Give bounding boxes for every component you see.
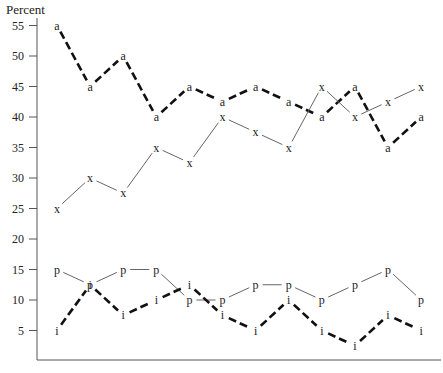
series-segment: [194, 123, 219, 157]
series-segment: [96, 181, 116, 190]
point-marker: a: [54, 19, 60, 33]
series-segment: [262, 135, 282, 144]
point-marker: a: [253, 80, 259, 94]
point-marker: x: [153, 141, 159, 155]
series-segment: [394, 89, 414, 98]
y-tick-label: 20: [12, 232, 24, 246]
point-marker: x: [286, 141, 292, 155]
point-marker: p: [385, 263, 391, 277]
series-segment: [361, 272, 381, 281]
point-marker: a: [319, 110, 325, 124]
point-marker: p: [186, 293, 192, 307]
series-segment: [262, 89, 282, 98]
y-tick-label: 30: [12, 171, 24, 185]
point-marker: i: [287, 293, 291, 307]
series-segment: [163, 288, 183, 297]
series-segment: [360, 320, 383, 341]
series-segment: [127, 62, 153, 111]
series-segment: [292, 93, 318, 142]
point-marker: i: [386, 308, 390, 322]
series-segment: [127, 153, 152, 187]
series-segment: [328, 288, 348, 297]
point-marker: x: [186, 156, 192, 170]
point-marker: x: [120, 186, 126, 200]
series-x: [62, 89, 415, 203]
point-marker: i: [353, 339, 357, 353]
y-tick-label: 45: [12, 80, 24, 94]
y-tick-label: 25: [12, 202, 24, 216]
point-marker: x: [418, 80, 424, 94]
series-segment: [394, 318, 414, 327]
point-marker: i: [155, 293, 159, 307]
series-segment: [63, 272, 83, 281]
series-segment: [229, 288, 249, 297]
point-marker: p: [418, 293, 424, 307]
point-marker: x: [319, 80, 325, 94]
point-marker: x: [54, 202, 60, 216]
series-segment: [60, 32, 86, 81]
y-tick-label: 40: [12, 110, 24, 124]
y-tick-label: 5: [18, 324, 24, 338]
y-tick-label: 55: [12, 19, 24, 33]
point-marker: i: [122, 308, 126, 322]
series-segment: [393, 274, 416, 295]
point-marker: p: [253, 278, 259, 292]
point-marker: p: [352, 278, 358, 292]
point-marker: p: [319, 293, 325, 307]
point-marker: i: [254, 324, 258, 338]
point-marker: a: [187, 80, 193, 94]
point-marker: a: [121, 49, 127, 63]
series-segment: [61, 290, 86, 324]
y-tick-label: 10: [12, 293, 24, 307]
y-tick-label: 35: [12, 141, 24, 155]
y-tick-label: 50: [12, 49, 24, 63]
point-marker: i: [55, 324, 59, 338]
series-p: [63, 270, 416, 301]
series-segment: [62, 183, 85, 204]
point-marker: x: [352, 110, 358, 124]
series-segment: [358, 93, 384, 142]
series-segment: [95, 289, 118, 310]
series-segment: [161, 274, 184, 295]
point-marker: i: [188, 278, 192, 292]
point-marker: a: [352, 80, 358, 94]
line-chart: 510152025303540455055aaaaaaaaaaaaxxxxxxx…: [0, 0, 443, 373]
point-marker: p: [54, 263, 60, 277]
point-marker: i: [419, 324, 423, 338]
series-segment: [261, 305, 284, 326]
series-segment: [295, 288, 315, 297]
point-marker: p: [286, 278, 292, 292]
point-marker: p: [220, 293, 226, 307]
series-segment: [130, 303, 150, 312]
point-marker: x: [220, 110, 226, 124]
series-segment: [96, 272, 116, 281]
series-segment: [393, 122, 416, 143]
y-tick-label: 15: [12, 263, 24, 277]
series-segment: [95, 61, 118, 82]
point-marker: x: [253, 125, 259, 139]
series-a: [60, 32, 416, 143]
series-segment: [328, 333, 348, 342]
series-segment: [161, 91, 184, 112]
point-marker: a: [220, 95, 226, 109]
series-segment: [229, 120, 249, 129]
point-marker: a: [418, 110, 424, 124]
series-segment: [163, 150, 183, 159]
point-marker: a: [286, 95, 292, 109]
series-segment: [295, 105, 315, 114]
point-marker: x: [87, 171, 93, 185]
point-marker: i: [221, 308, 225, 322]
point-marker: i: [320, 324, 324, 338]
series-i: [61, 288, 415, 343]
point-marker: a: [87, 80, 93, 94]
point-marker: a: [385, 141, 391, 155]
point-marker: a: [154, 110, 160, 124]
point-marker: p: [153, 263, 159, 277]
series-segment: [229, 318, 249, 327]
series-segment: [196, 89, 216, 98]
series-segment: [294, 305, 317, 326]
series-segment: [229, 89, 249, 98]
point-marker: p: [120, 263, 126, 277]
point-marker: x: [385, 95, 391, 109]
